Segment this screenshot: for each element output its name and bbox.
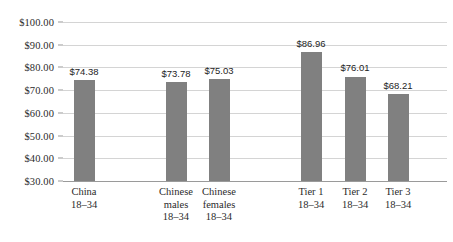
x-axis-category-label: Tier 318–34 bbox=[385, 186, 411, 211]
y-axis-tick-label: $90.00 bbox=[25, 39, 54, 50]
x-axis-label-line: 18–34 bbox=[71, 199, 97, 212]
plot-area bbox=[63, 22, 447, 181]
y-axis-tick-label: $100.00 bbox=[19, 17, 54, 28]
x-axis-label-line: 18–34 bbox=[342, 199, 368, 212]
bar[interactable] bbox=[388, 94, 409, 181]
y-axis-tick-label: $30.00 bbox=[25, 176, 54, 187]
bar[interactable] bbox=[209, 79, 230, 181]
bar-value-label: $86.96 bbox=[296, 38, 325, 49]
bar[interactable] bbox=[166, 82, 187, 181]
x-axis-category-label: China18–34 bbox=[71, 186, 97, 211]
bar-value-label: $68.21 bbox=[383, 80, 412, 91]
gridline bbox=[63, 67, 447, 68]
x-axis-label-line: females bbox=[202, 199, 236, 212]
y-axis-tick-label: $70.00 bbox=[25, 85, 54, 96]
x-axis-label-line: China bbox=[71, 186, 97, 199]
x-axis-label-line: Chinese bbox=[202, 186, 236, 199]
bar-value-label: $75.03 bbox=[204, 65, 233, 76]
x-axis-category-label: Tier 118–34 bbox=[298, 186, 324, 211]
x-axis-label-line: Tier 3 bbox=[385, 186, 411, 199]
bar[interactable] bbox=[74, 80, 95, 181]
x-axis-category-label: Chinesemales18–34 bbox=[159, 186, 193, 224]
gridline bbox=[63, 181, 447, 182]
bar-value-label: $76.01 bbox=[340, 62, 369, 73]
gridline bbox=[63, 45, 447, 46]
x-axis-category-label: Chinesefemales18–34 bbox=[202, 186, 236, 224]
bar[interactable] bbox=[345, 77, 366, 182]
bar-chart: $100.00$90.00$80.00$70.00$60.00$50.00$40… bbox=[0, 0, 453, 242]
y-axis: $100.00$90.00$80.00$70.00$60.00$50.00$40… bbox=[0, 0, 63, 242]
x-axis-category-label: Tier 218–34 bbox=[342, 186, 368, 211]
y-axis-tick-label: $60.00 bbox=[25, 107, 54, 118]
bar[interactable] bbox=[301, 52, 322, 181]
bar-value-label: $74.38 bbox=[69, 66, 98, 77]
x-axis-label-line: 18–34 bbox=[159, 211, 193, 224]
y-axis-tick-label: $80.00 bbox=[25, 62, 54, 73]
x-axis-label-line: Chinese bbox=[159, 186, 193, 199]
y-axis-tick-label: $40.00 bbox=[25, 153, 54, 164]
x-axis-label-line: 18–34 bbox=[202, 211, 236, 224]
x-axis-label-line: Tier 1 bbox=[298, 186, 324, 199]
x-axis-label-line: Tier 2 bbox=[342, 186, 368, 199]
x-axis-label-line: 18–34 bbox=[298, 199, 324, 212]
bar-value-label: $73.78 bbox=[161, 68, 190, 79]
y-axis-tick-label: $50.00 bbox=[25, 130, 54, 141]
gridline bbox=[63, 22, 447, 23]
x-axis-label-line: 18–34 bbox=[385, 199, 411, 212]
x-axis-label-line: males bbox=[159, 199, 193, 212]
